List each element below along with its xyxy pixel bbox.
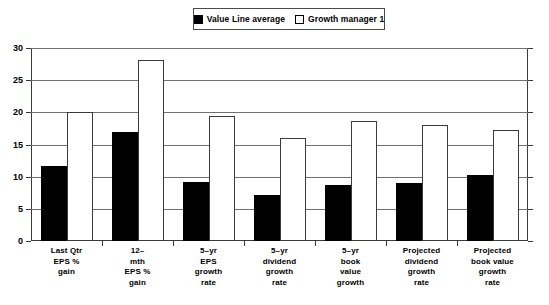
bar bbox=[183, 182, 209, 241]
y-tick-right-10 bbox=[528, 177, 533, 178]
y-axis-label-30: 30 bbox=[13, 43, 23, 53]
bar bbox=[209, 116, 235, 241]
bar bbox=[325, 185, 351, 241]
y-tick-right-0 bbox=[528, 241, 533, 242]
legend-entry-value-line-average: Value Line average bbox=[194, 15, 285, 24]
bar bbox=[467, 175, 493, 241]
y-axis-label-10: 10 bbox=[13, 172, 23, 182]
x-axis-category-label: Projectedbook valuegrowthrate bbox=[457, 246, 528, 302]
x-axis-category-label: 5–yrEPSgrowthrate bbox=[173, 246, 244, 302]
y-tick-right-15 bbox=[528, 145, 533, 146]
bar bbox=[67, 112, 93, 241]
bar-group bbox=[457, 48, 528, 241]
bar bbox=[493, 130, 519, 241]
bar-group bbox=[102, 48, 173, 241]
y-axis-label-0: 0 bbox=[18, 236, 23, 246]
legend-entry-growth-manager-1: Growth manager 1 bbox=[295, 15, 384, 24]
legend-label-growth-manager-1: Growth manager 1 bbox=[308, 15, 384, 24]
hollow-square-icon bbox=[295, 15, 304, 24]
bar bbox=[422, 125, 448, 241]
chart-legend: Value Line average Growth manager 1 bbox=[193, 8, 385, 30]
bar bbox=[280, 138, 306, 241]
bar-group bbox=[315, 48, 386, 241]
x-axis-category-label: 5–yrbookvaluegrowth bbox=[315, 246, 386, 302]
bar bbox=[112, 132, 138, 241]
y-axis-label-15: 15 bbox=[13, 140, 23, 150]
bar-groups bbox=[31, 48, 528, 241]
x-axis-category-label: 12–mthEPS %gain bbox=[102, 246, 173, 302]
x-axis-category-label: Last QtrEPS %gain bbox=[31, 246, 102, 302]
bar-group bbox=[173, 48, 244, 241]
bar-group bbox=[244, 48, 315, 241]
plot-area: 302520151050 bbox=[31, 48, 528, 241]
x-axis-labels: Last QtrEPS %gain12–mthEPS %gain5–yrEPSg… bbox=[31, 246, 528, 302]
legend-label-value-line-average: Value Line average bbox=[207, 15, 285, 24]
y-axis-label-20: 20 bbox=[13, 107, 23, 117]
bar-group bbox=[386, 48, 457, 241]
y-axis-label-25: 25 bbox=[13, 75, 23, 85]
x-axis-category-label: Projecteddividendgrowthrate bbox=[386, 246, 457, 302]
y-tick-right-20 bbox=[528, 112, 533, 113]
bar bbox=[396, 183, 422, 241]
x-axis-category-label: 5–yrdividendgrowthrate bbox=[244, 246, 315, 302]
y-tick-right-30 bbox=[528, 48, 533, 49]
y-tick-right-5 bbox=[528, 209, 533, 210]
bar-group bbox=[31, 48, 102, 241]
y-axis-label-5: 5 bbox=[18, 204, 23, 214]
bar bbox=[351, 121, 377, 241]
filled-square-icon bbox=[194, 15, 203, 24]
y-tick-left-0 bbox=[26, 241, 31, 242]
bar bbox=[41, 166, 67, 241]
bar-chart: Value Line average Growth manager 1 3025… bbox=[0, 0, 549, 305]
bar bbox=[254, 195, 280, 241]
bar bbox=[138, 60, 164, 241]
y-tick-right-25 bbox=[528, 80, 533, 81]
